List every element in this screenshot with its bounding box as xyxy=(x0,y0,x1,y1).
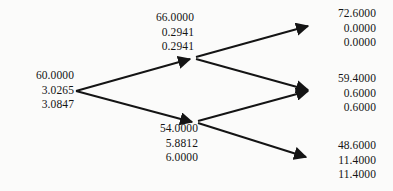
node-down-value-2: 6.0000 xyxy=(132,150,198,165)
edge-down-to-up-down xyxy=(198,91,308,121)
node-root-asset-price: 60.0000 xyxy=(8,68,74,83)
binomial-tree-diagram: 60.0000 3.0265 3.0847 66.0000 0.2941 0.2… xyxy=(0,0,393,191)
node-down-down: 48.6000 11.4000 11.4000 xyxy=(310,138,376,182)
node-up: 66.0000 0.2941 0.2941 xyxy=(128,10,194,54)
node-up-up-asset-price: 72.6000 xyxy=(310,6,376,21)
node-up-down-value-1: 0.6000 xyxy=(310,86,376,101)
edge-root-to-down xyxy=(76,91,192,122)
node-up-down-asset-price: 59.4000 xyxy=(310,71,376,86)
edge-down-to-down-down xyxy=(198,123,306,157)
node-up-down-value-2: 0.6000 xyxy=(310,100,376,115)
node-up-value-2: 0.2941 xyxy=(128,39,194,54)
node-up-asset-price: 66.0000 xyxy=(128,10,194,25)
node-root: 60.0000 3.0265 3.0847 xyxy=(8,68,74,112)
node-down-down-asset-price: 48.6000 xyxy=(310,138,376,153)
node-root-value-2: 3.0847 xyxy=(8,97,74,112)
node-down-down-value-1: 11.4000 xyxy=(310,153,376,168)
node-up-value-1: 0.2941 xyxy=(128,25,194,40)
node-up-up: 72.6000 0.0000 0.0000 xyxy=(310,6,376,50)
edge-root-to-up xyxy=(76,59,190,91)
node-up-down: 59.4000 0.6000 0.6000 xyxy=(310,71,376,115)
node-up-up-value-1: 0.0000 xyxy=(310,21,376,36)
node-down-asset-price: 54.0000 xyxy=(132,121,198,136)
node-down: 54.0000 5.8812 6.0000 xyxy=(132,121,198,165)
node-down-down-value-2: 11.4000 xyxy=(310,167,376,182)
edge-up-to-up-up xyxy=(196,26,308,57)
edge-up-to-up-down xyxy=(196,59,308,90)
node-root-value-1: 3.0265 xyxy=(8,83,74,98)
node-down-value-1: 5.8812 xyxy=(132,136,198,151)
node-up-up-value-2: 0.0000 xyxy=(310,35,376,50)
